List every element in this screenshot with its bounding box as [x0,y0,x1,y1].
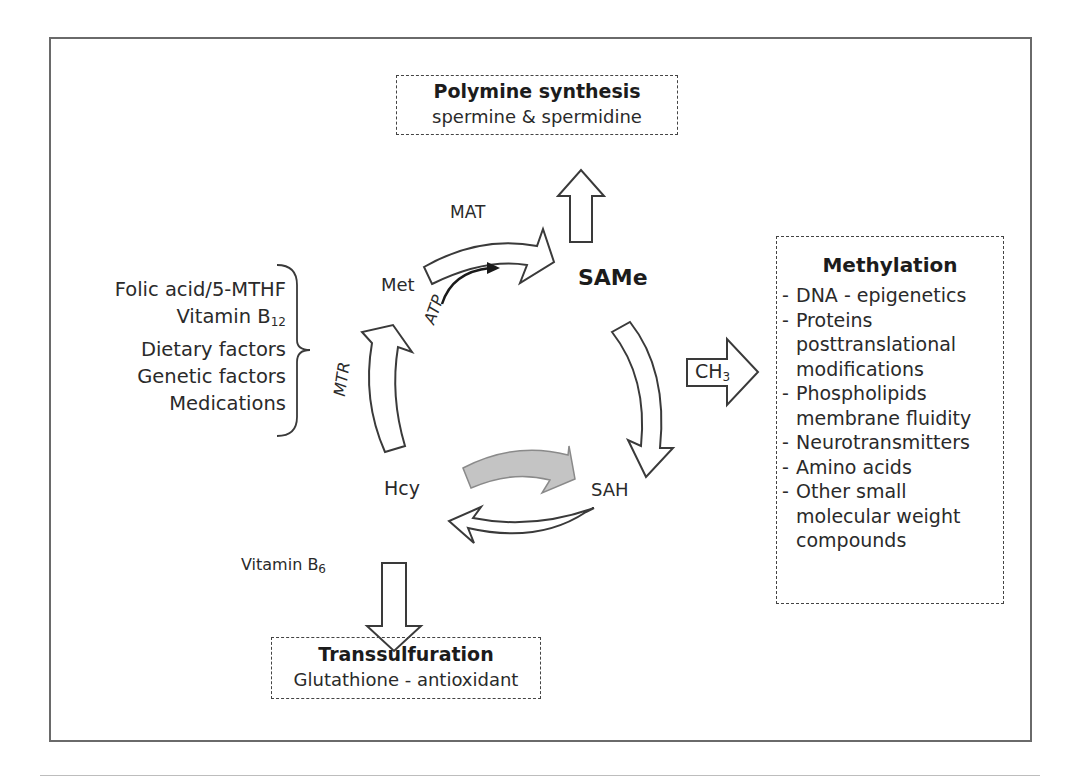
hcy-label: Hcy [384,477,420,499]
sah-label: SAH [591,479,629,500]
factor-item: Vitamin B12 [60,303,286,336]
polyamine-title: Polymine synthesis [397,80,677,102]
arrow-up-to-polyamine-icon [558,170,604,242]
transsulfuration-subtitle: Glutathione - antioxidant [272,669,540,690]
factors-list: Folic acid/5-MTHF Vitamin B12 Dietary fa… [60,276,286,417]
polyamine-subtitle: spermine & spermidine [397,106,677,127]
methylation-item: -DNA - epigenetics [782,283,971,308]
gray-arrow-icon [463,446,575,493]
met-label: Met [381,274,415,295]
vitamin-b6-label: Vitamin B6 [241,555,326,576]
sah-to-hcy-arrow-icon [449,507,594,543]
factor-item: Medications [60,390,286,417]
methylation-item: -Proteinsposttranslationalmodifications [782,308,971,382]
mat-label: MAT [450,202,485,222]
ch3-label: CH3 [695,360,730,384]
polyamine-synthesis-box: Polymine synthesis spermine & spermidine [396,75,678,135]
same-label: SAMe [578,265,648,290]
factor-item: Folic acid/5-MTHF [60,276,286,303]
methylation-item: -Phospholipidsmembrane fluidity [782,381,971,430]
factor-item: Dietary factors [60,336,286,363]
mtr-arrow-icon [362,325,412,452]
methylation-list: -DNA - epigenetics -Proteinsposttranslat… [782,283,971,553]
methylation-box: Methylation -DNA - epigenetics -Proteins… [776,236,1004,604]
mat-arrow-icon [424,229,554,284]
methylation-title: Methylation [777,253,1003,277]
same-to-sah-arrow-icon [612,322,673,477]
methylation-item: -Other smallmolecular weightcompounds [782,479,971,553]
factor-item: Genetic factors [60,363,286,390]
transsulfuration-title: Transsulfuration [272,643,540,665]
methylation-item: -Neurotransmitters [782,430,971,455]
methylation-item: -Amino acids [782,455,971,480]
transsulfuration-box: Transsulfuration Glutathione - antioxida… [271,637,541,699]
